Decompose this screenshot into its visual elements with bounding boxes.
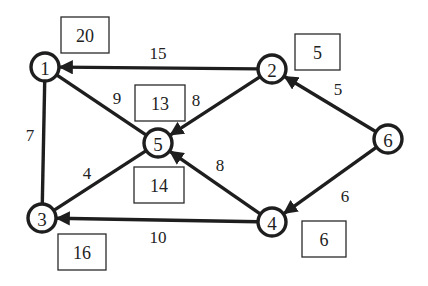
edge-weight-5-3: 4 <box>83 164 92 183</box>
graph-diagram: 15987481056 123456 2051314166 <box>0 0 428 286</box>
edge-weights: 15987481056 <box>26 44 350 247</box>
node-2: 2 <box>258 55 286 83</box>
node-label: 2 <box>267 60 277 81</box>
edge-2-to-1 <box>60 67 258 69</box>
edge-weight-4-3: 10 <box>150 228 167 247</box>
edge-weight-2-5: 8 <box>192 91 201 110</box>
edge-5-to-3 <box>55 151 147 210</box>
node-label: 5 <box>153 134 163 155</box>
node-label: 6 <box>383 130 393 151</box>
edge-6-to-2 <box>285 77 376 132</box>
node-6: 6 <box>374 125 402 153</box>
edge-1-to-5 <box>57 75 146 135</box>
edge-weight-6-2: 5 <box>334 80 343 99</box>
edge-1-to-3 <box>42 81 44 203</box>
node-label: 3 <box>37 209 47 230</box>
value-box-node-5: 14 <box>134 167 184 203</box>
value-box-label: 20 <box>76 26 94 46</box>
value-box-node-1: 20 <box>61 17 109 53</box>
edge-6-to-4 <box>284 147 376 213</box>
value-box-node-4: 6 <box>302 221 346 257</box>
value-box-label: 16 <box>73 243 91 263</box>
edges <box>42 67 376 222</box>
edge-weight-6-4: 6 <box>341 187 350 206</box>
edge-weight-2-1: 15 <box>150 44 167 63</box>
node-label: 1 <box>40 58 50 79</box>
edge-weight-1-5: 9 <box>113 89 122 108</box>
nodes: 123456 <box>28 53 402 236</box>
node-1: 1 <box>31 53 59 81</box>
value-box-label: 13 <box>151 94 169 114</box>
node-5: 5 <box>144 129 172 157</box>
value-box-label: 14 <box>150 176 168 196</box>
value-box-label: 5 <box>313 43 322 63</box>
edge-weight-1-3: 7 <box>26 126 35 145</box>
value-box-node-5: 13 <box>135 85 185 121</box>
node-value-boxes: 2051314166 <box>58 17 346 270</box>
edge-weight-4-5: 8 <box>216 156 225 175</box>
value-box-label: 6 <box>320 230 329 250</box>
node-3: 3 <box>28 204 56 232</box>
value-box-node-2: 5 <box>295 34 340 70</box>
edge-4-to-3 <box>57 218 258 221</box>
value-box-node-3: 16 <box>58 234 106 270</box>
node-4: 4 <box>258 208 286 236</box>
node-label: 4 <box>267 213 277 234</box>
